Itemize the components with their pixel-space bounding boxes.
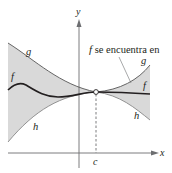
g-right-label: g [141,55,146,66]
x-axis-arrow-icon [151,151,159,156]
annotation-text: f se encuentra en [89,43,160,55]
h-left-label: h [33,121,38,132]
h-right-label: h [134,110,139,121]
limit-point [94,90,99,95]
g-left-label: g [26,46,31,57]
x-axis-label: x [159,147,165,158]
y-axis-arrow-icon [77,19,82,27]
squeeze-theorem-diagram: y x c g f h g f h f se encuentra en [0,0,172,173]
c-label: c [93,156,98,167]
y-axis-label: y [75,6,81,17]
annotation-rest: se encuentra en [92,44,160,55]
annotation-leader-line [119,57,131,83]
